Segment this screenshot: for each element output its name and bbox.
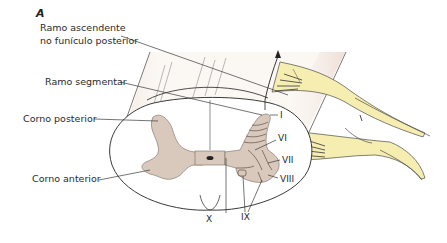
label-lamina-i: I [280, 110, 283, 120]
label-lamina-ix: IX [241, 212, 250, 222]
label-ramo-ascendente-line2: no funículo posterior [40, 35, 138, 47]
label-lamina-viii: VIII [280, 174, 294, 184]
label-corno-anterior: Corno anterior [32, 173, 101, 185]
label-ramo-ascendente-line1: Ramo ascendente [40, 22, 126, 34]
label-lamina-vii: VII [282, 155, 293, 165]
label-corno-posterior: Corno posterior [23, 113, 97, 125]
panel-label: A [36, 7, 45, 20]
ventral-root [298, 128, 425, 180]
label-lamina-vi: VI [278, 133, 287, 143]
label-ramo-segmentar: Ramo segmentar [45, 76, 127, 88]
label-lamina-x: X [206, 214, 212, 224]
spinal-cord-diagram: A Ramo ascendente no funículo posterior … [0, 0, 447, 243]
